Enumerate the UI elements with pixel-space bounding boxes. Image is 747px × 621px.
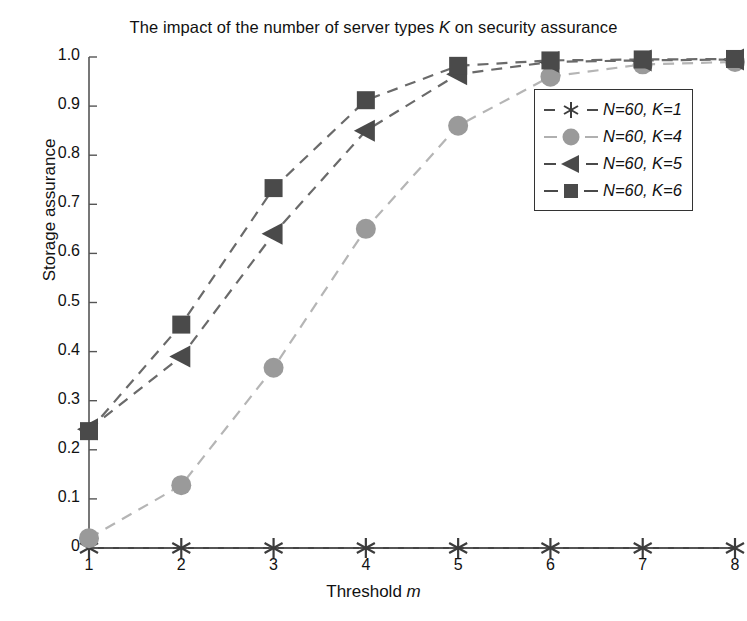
legend-item[interactable]: N=60, K=5: [543, 150, 682, 177]
legend-marker-asterisk-icon: [543, 99, 599, 121]
y-tick-label: 1.0: [28, 46, 80, 64]
chart-figure: The impact of the number of server types…: [0, 0, 747, 621]
y-tick-label: 0.9: [28, 95, 80, 113]
x-tick-label: 7: [628, 556, 658, 574]
x-tick-label: 1: [74, 556, 104, 574]
x-tick-label: 3: [259, 556, 289, 574]
x-tick-label: 5: [443, 556, 473, 574]
legend-label: N=60, K=4: [603, 127, 682, 146]
y-tick-label: 0.6: [28, 242, 80, 260]
legend-label: N=60, K=1: [603, 100, 682, 119]
y-tick-label: 0.7: [28, 193, 80, 211]
x-tick-label: 2: [166, 556, 196, 574]
y-tick-label: 0.5: [28, 292, 80, 310]
legend-marker-circle-icon: [543, 126, 599, 148]
y-tick-label: 0.8: [28, 144, 80, 162]
y-tick-label: 0.4: [28, 341, 80, 359]
legend-marker-square-icon: [543, 180, 599, 202]
legend-marker-left-triangle-icon: [543, 153, 599, 175]
legend-item[interactable]: N=60, K=4: [543, 123, 682, 150]
legend-label: N=60, K=6: [603, 181, 682, 200]
y-tick-label: 0.3: [28, 390, 80, 408]
series-asterisk: [80, 538, 744, 558]
legend-item[interactable]: N=60, K=1: [543, 96, 682, 123]
x-tick-label: 8: [720, 556, 747, 574]
x-axis-label: Threshold m: [0, 582, 747, 602]
y-tick-label: 0.2: [28, 439, 80, 457]
y-tick-label: 0: [28, 537, 80, 555]
legend-item[interactable]: N=60, K=6: [543, 177, 682, 204]
chart-legend: N=60, K=1 N=60, K=4 N=60, K=5: [534, 89, 693, 211]
y-tick-label: 0.1: [28, 488, 80, 506]
x-tick-label: 6: [535, 556, 565, 574]
legend-label: N=60, K=5: [603, 154, 682, 173]
x-tick-label: 4: [351, 556, 381, 574]
